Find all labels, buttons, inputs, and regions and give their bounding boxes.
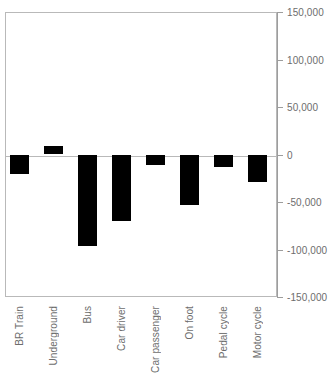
x-axis-label-br-train: BR Train: [14, 306, 25, 346]
bar-chart: 150,000100,00050,0000-50,000-100,000-150…: [0, 0, 328, 380]
x-axis-label-on-foot: On foot: [184, 306, 195, 340]
y-axis-tick-label: -50,000: [287, 197, 322, 208]
y-axis-tick: [277, 107, 283, 108]
y-axis-tick: [277, 155, 283, 156]
y-axis-tick: [277, 297, 283, 298]
x-axis-label-bus: Bus: [82, 306, 93, 324]
y-axis-tick: [277, 202, 283, 203]
x-axis-label-pedal-cycle: Pedal cycle: [218, 306, 229, 358]
bar: [44, 146, 63, 155]
y-axis-tick-label: -100,000: [287, 244, 327, 255]
bars-layer: [5, 12, 277, 297]
x-axis-label-underground: Underground: [48, 306, 59, 365]
bar: [248, 155, 267, 183]
x-axis-label-motor-cycle: Motor cycle: [252, 306, 263, 358]
bar: [10, 155, 29, 175]
y-axis-tick: [277, 250, 283, 251]
bar: [180, 155, 199, 205]
bar: [214, 155, 233, 167]
y-axis-tick-label: 100,000: [287, 54, 324, 65]
y-axis-tick: [277, 12, 283, 13]
x-axis-label-car-passenger: Car passenger: [150, 306, 161, 373]
y-axis-tick: [277, 60, 283, 61]
y-axis-tick-label: 50,000: [287, 102, 318, 113]
y-axis-tick-label: 150,000: [287, 7, 324, 18]
bar: [146, 155, 165, 165]
y-axis-tick-label: -150,000: [287, 292, 327, 303]
bar: [112, 155, 131, 222]
bar: [78, 155, 97, 246]
x-axis-label-car-driver: Car driver: [116, 306, 127, 351]
y-axis-tick-label: 0: [287, 149, 293, 160]
